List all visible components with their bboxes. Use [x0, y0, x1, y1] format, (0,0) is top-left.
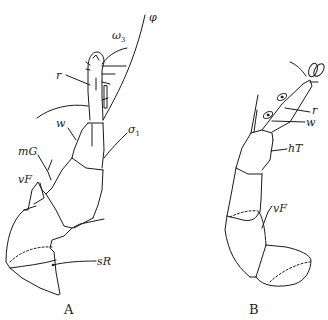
label-b-w: w: [306, 117, 315, 128]
label-a-omega3: ω3: [112, 30, 125, 44]
label-a-w: w: [56, 118, 65, 129]
label-a-sigma1-sub: 1: [136, 130, 140, 138]
label-a-sigma1: σ1: [128, 124, 140, 138]
label-a-mG: mG: [18, 146, 37, 157]
caption-a: A: [64, 303, 73, 316]
label-a-sR: sR: [97, 256, 111, 267]
label-a-vF: vF: [18, 174, 32, 185]
figure-drawing: [0, 0, 328, 320]
label-b-vF: vF: [273, 203, 287, 214]
label-b-hT: hT: [288, 143, 302, 154]
label-a-omega3-base: ω: [112, 29, 121, 42]
panel-b-appendage: [225, 62, 326, 286]
label-a-phi: φ: [149, 12, 157, 23]
label-a-omega3-sub: 3: [121, 36, 125, 44]
label-a-sigma1-base: σ: [128, 123, 136, 136]
caption-b: B: [249, 303, 259, 316]
label-a-r: r: [56, 70, 61, 81]
label-b-r: r: [312, 105, 317, 116]
